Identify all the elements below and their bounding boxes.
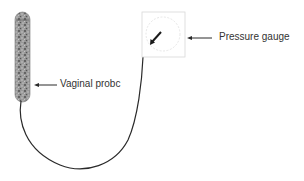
probe-pointer-arrow-icon [34, 83, 57, 87]
vaginal-probe [15, 12, 30, 102]
pressure-gauge [142, 12, 185, 57]
tube [20, 57, 143, 169]
diagram-canvas [0, 0, 304, 181]
gauge-pointer-arrow-icon [187, 36, 212, 40]
probe-label: Vaginal probc [60, 79, 120, 89]
gauge-label: Pressure gauge [219, 32, 290, 42]
